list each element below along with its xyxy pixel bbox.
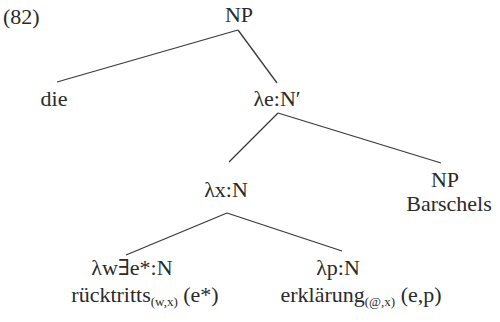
left-leaf-stem: rücktritts (71, 282, 150, 307)
node-left-leaf-word: rücktritts(w,x) (e*) (71, 283, 218, 307)
node-nbar: λe:N′ (253, 87, 300, 111)
node-left-leaf-label: λw∃e*:N (91, 256, 172, 280)
edge-np-die (57, 30, 238, 82)
edge-nbar-possessor (278, 113, 441, 163)
left-leaf-args: (e*) (183, 282, 218, 307)
node-right-leaf-label: λp:N (316, 256, 360, 280)
left-leaf-subscript: (w,x) (151, 294, 178, 309)
edge-np-nbar (238, 30, 277, 83)
right-leaf-args: (e,p) (401, 282, 442, 307)
node-possessor-category: NP (431, 168, 459, 192)
node-n: λx:N (204, 178, 248, 202)
example-number: (82) (3, 5, 40, 29)
edge-nbar-n (229, 113, 278, 162)
node-det-die: die (41, 87, 68, 111)
tree-edges (0, 0, 500, 322)
edge-n-left-leaf (126, 213, 227, 255)
node-right-leaf-word: erklärung(@,x) (e,p) (280, 283, 441, 307)
edge-n-right-leaf (227, 213, 342, 251)
node-root-np: NP (225, 3, 253, 27)
right-leaf-stem: erklärung (280, 282, 364, 307)
right-leaf-subscript: (@,x) (365, 294, 395, 309)
node-possessor-word: Barschels (406, 192, 492, 216)
